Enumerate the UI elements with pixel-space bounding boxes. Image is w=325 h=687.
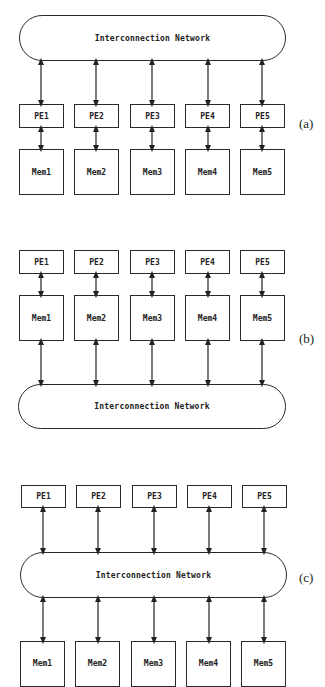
connection-arrows [0,0,325,670]
architecture-diagrams: Interconnection Network PE1 PE2 PE3 PE4 … [0,0,325,670]
